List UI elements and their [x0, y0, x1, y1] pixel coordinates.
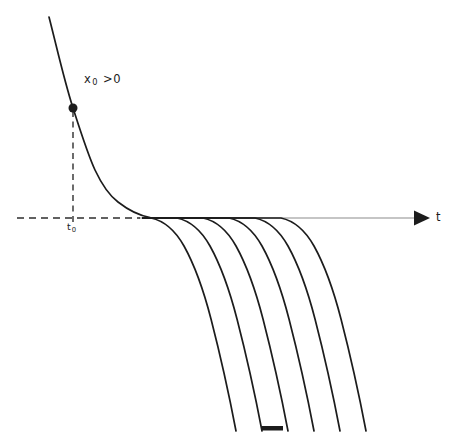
- solution-curve: [143, 218, 288, 431]
- solution-curve: [143, 218, 340, 431]
- solution-curve: [143, 218, 262, 431]
- t0-label: t0: [67, 221, 76, 234]
- t-axis-label: t: [436, 210, 441, 224]
- t0-subscript: 0: [72, 226, 76, 234]
- solution-curve: [143, 218, 236, 431]
- initial-condition-label: x0>0: [84, 72, 121, 87]
- x0-relation: >0: [103, 72, 121, 86]
- t0-base: t: [67, 221, 71, 232]
- bottom-crop-mark: [262, 426, 283, 431]
- t-axis-arrowhead-icon: [414, 211, 430, 226]
- solution-curve: [143, 218, 314, 431]
- figure-canvas: [0, 0, 456, 432]
- x0-subscript: 0: [92, 77, 98, 87]
- main-solution-curve: [49, 17, 150, 218]
- solution-curve: [143, 218, 366, 431]
- figure-stage: x0>0 t0 t: [0, 0, 456, 432]
- escaping-curves: [143, 218, 366, 431]
- initial-point-marker: [69, 104, 78, 113]
- x0-base: x: [84, 72, 91, 86]
